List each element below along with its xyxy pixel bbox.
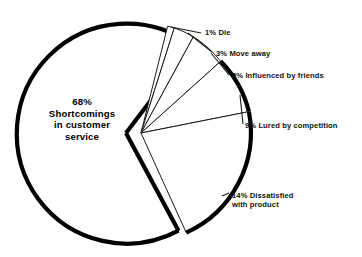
center-label: 68% Shortcomings in customer service: [31, 96, 133, 142]
callout-label-die: 1% Die: [205, 28, 231, 37]
center-label-line3: service: [31, 131, 133, 143]
pie-chart: 68% Shortcomings in customer service 1% …: [0, 0, 362, 257]
callout-label-lured-by-competition: 9% Lured by competition: [245, 121, 338, 130]
callout-label-move-away: 3% Move away: [216, 49, 270, 58]
callout-label-dissatisfied-line2: with product: [232, 200, 279, 209]
center-label-percent: 68%: [31, 96, 133, 108]
center-label-line1: Shortcomings: [31, 108, 133, 120]
callout-label-dissatisfied-line1: 14% Dissatisfied: [232, 191, 294, 200]
callout-label-influenced-by-friends: 5% Influenced by friends: [232, 71, 324, 80]
center-label-line2: in customer: [31, 119, 133, 131]
